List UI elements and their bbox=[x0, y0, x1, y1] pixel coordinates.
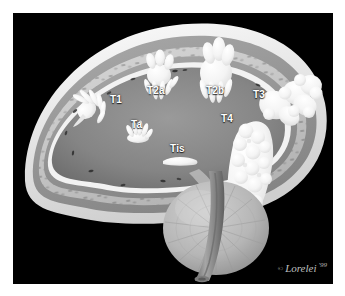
stage-label-T1: T1 bbox=[110, 95, 122, 105]
bladder-staging-figure: T1 T2a T2b T3 T4 Ta Tis ©Lorelei'99 bbox=[0, 0, 345, 296]
stage-label-T2a: T2a bbox=[147, 86, 165, 96]
signature-name: Lorelei bbox=[285, 262, 316, 274]
copyright-symbol: © bbox=[278, 265, 283, 273]
artist-signature: ©Lorelei'99 bbox=[278, 261, 327, 274]
stage-label-T3: T3 bbox=[253, 90, 265, 100]
stage-label-T2b: T2b bbox=[206, 86, 224, 96]
stage-label-Ta: Ta bbox=[131, 120, 142, 130]
stage-label-T4: T4 bbox=[221, 114, 233, 124]
signature-year: '99 bbox=[319, 261, 328, 269]
illustration-canvas: T1 T2a T2b T3 T4 Ta Tis ©Lorelei'99 bbox=[13, 13, 333, 284]
stage-label-Tis: Tis bbox=[170, 144, 185, 154]
